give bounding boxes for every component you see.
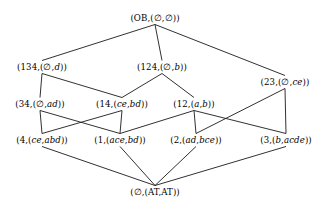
lattice-node-label: (134,(∅,d)) — [17, 62, 67, 72]
lattice-node-n12: (12,(a,b)) — [171, 99, 216, 110]
lattice-node-label: (12,(a,b)) — [173, 99, 214, 109]
lattice-edge — [40, 111, 42, 134]
lattice-edge — [194, 111, 286, 134]
lattice-node-label: (124,(∅,b)) — [137, 62, 187, 72]
lattice-node-bot: (∅,(AT,AT)) — [128, 187, 182, 198]
lattice-node-label: (3,(b,acde)) — [260, 135, 312, 145]
lattice-node-n34: (34,(∅,ad)) — [13, 99, 67, 110]
lattice-diagram-canvas: (OB,(∅,∅))(134,(∅,d))(124,(∅,b))(23,(∅,c… — [0, 0, 323, 209]
lattice-node-n2: (2,(ad,bce)) — [168, 135, 224, 146]
lattice-node-n3: (3,(b,acde)) — [258, 135, 314, 146]
lattice-edge — [40, 74, 42, 98]
lattice-edge — [155, 147, 286, 186]
lattice-node-label: (4,(ce,abd)) — [16, 135, 68, 145]
lattice-edge — [42, 111, 122, 134]
lattice-node-label: (∅,(AT,AT)) — [130, 187, 180, 197]
lattice-node-label: (23,(∅,ce)) — [261, 77, 310, 87]
lattice-edge — [120, 111, 122, 134]
lattice-node-n23: (23,(∅,ce)) — [259, 77, 312, 88]
lattice-edge — [155, 25, 162, 61]
lattice-edge — [196, 89, 285, 134]
lattice-edge — [42, 25, 155, 61]
lattice-edge — [120, 111, 194, 134]
lattice-node-n1: (1,(ace,bd)) — [92, 135, 148, 146]
lattice-edge — [162, 74, 194, 98]
lattice-node-n4: (4,(ce,abd)) — [14, 135, 70, 146]
lattice-node-label: (2,(ad,bce)) — [170, 135, 222, 145]
lattice-node-label: (1,(ace,bd)) — [94, 135, 146, 145]
lattice-edge — [42, 74, 122, 98]
lattice-node-label: (34,(∅,ad)) — [15, 99, 65, 109]
lattice-edge — [285, 89, 286, 134]
lattice-edge — [194, 111, 196, 134]
lattice-edge — [40, 111, 120, 134]
lattice-node-top: (OB,(∅,∅)) — [128, 13, 181, 24]
lattice-node-label: (14,(ce,bd)) — [96, 99, 148, 109]
lattice-node-n124: (124,(∅,b)) — [135, 62, 189, 73]
lattice-node-n134: (134,(∅,d)) — [15, 62, 69, 73]
lattice-node-label: (OB,(∅,∅)) — [130, 13, 179, 23]
lattice-node-n14: (14,(ce,bd)) — [94, 99, 150, 110]
lattice-edge — [122, 74, 162, 98]
